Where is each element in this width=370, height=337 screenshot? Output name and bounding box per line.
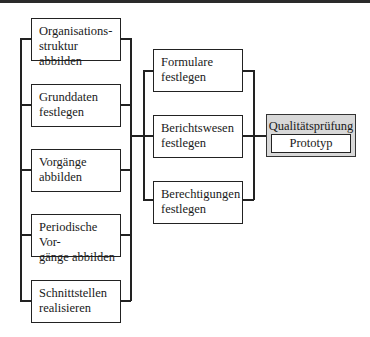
box-label-line1: Grunddaten	[39, 90, 120, 105]
box-label-line1: Formulare	[161, 55, 242, 70]
connector	[143, 135, 153, 137]
qualitaetspruefung-box: Qualitätsprüfung Prototyp	[266, 114, 356, 157]
box-label-line1: Periodische Vor-	[39, 220, 120, 250]
box-label-line2: realisieren	[39, 301, 120, 316]
box-label-line2: gänge abbilden	[39, 250, 120, 265]
connector	[20, 104, 31, 106]
box-organisationsstruktur: Organisations- struktur abbilden	[31, 18, 121, 61]
box-label-line1: Schnittstellen	[39, 286, 120, 301]
box-label-line2: festlegen	[39, 105, 120, 120]
connector	[243, 199, 254, 201]
connector	[20, 169, 31, 171]
top-border-line	[0, 0, 370, 3]
box-label-line2: festlegen	[161, 136, 242, 151]
box-label-line2: festlegen	[161, 202, 242, 217]
box-label-line1: Vorgänge	[39, 155, 120, 170]
connector	[243, 70, 254, 72]
box-formulare: Formulare festlegen	[153, 49, 243, 92]
connector	[20, 300, 31, 302]
box-schnittstellen: Schnittstellen realisieren	[31, 280, 121, 323]
box-berechtigungen: Berechtigungen festlegen	[153, 181, 243, 224]
connector	[120, 169, 131, 171]
prototyp-box: Prototyp	[271, 134, 351, 153]
connector	[143, 70, 153, 72]
box-label-line1: Berechtigungen	[161, 187, 242, 202]
qualitaetspruefung-title: Qualitätsprüfung	[267, 119, 355, 133]
box-grunddaten: Grunddaten festlegen	[31, 84, 121, 127]
connector	[120, 300, 131, 302]
box-berichtswesen: Berichtswesen festlegen	[153, 115, 243, 158]
box-label-line2: abbilden	[39, 170, 120, 185]
connector	[120, 38, 131, 40]
box-periodische-vorgaenge: Periodische Vor- gänge abbilden	[31, 214, 121, 257]
connector	[120, 104, 131, 106]
box-vorgaenge: Vorgänge abbilden	[31, 149, 121, 192]
box-label-line2: struktur abbilden	[39, 39, 120, 69]
connector	[143, 199, 153, 201]
box-label-line1: Organisations-	[39, 24, 120, 39]
connector	[120, 234, 131, 236]
box-label-line2: festlegen	[161, 70, 242, 85]
box-label-line1: Berichtswesen	[161, 121, 242, 136]
group-link-line	[130, 135, 143, 137]
result-link-line	[253, 135, 266, 137]
connector	[20, 38, 31, 40]
connector	[20, 234, 31, 236]
